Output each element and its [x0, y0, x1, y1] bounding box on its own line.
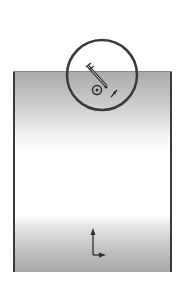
diagram-overlay [0, 0, 182, 287]
diagram-canvas [0, 0, 182, 287]
detail-circle [67, 40, 137, 110]
wheel-icon [93, 86, 102, 95]
axis-triad-icon [91, 228, 107, 258]
mechanism-rod-icon [86, 63, 108, 89]
arrow-marker-icon [111, 90, 117, 97]
